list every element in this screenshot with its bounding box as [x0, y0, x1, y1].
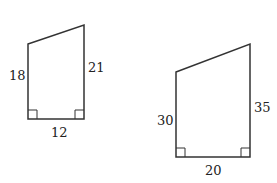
- diagram-canvas: 18 21 12 30 35 20: [0, 0, 277, 183]
- large-trapezoid-outline: [176, 44, 250, 157]
- right-angle-marker-right: [241, 148, 250, 157]
- large-bottom-label: 20: [205, 163, 222, 178]
- right-angle-marker-left: [28, 110, 37, 119]
- small-bottom-label: 12: [51, 125, 68, 140]
- small-trapezoid: 18 21 12: [9, 25, 105, 140]
- small-left-side-label: 18: [9, 68, 26, 83]
- right-angle-marker-left: [176, 148, 185, 157]
- small-right-side-label: 21: [88, 60, 105, 75]
- large-trapezoid: 30 35 20: [157, 44, 271, 178]
- large-left-side-label: 30: [157, 113, 174, 128]
- small-trapezoid-outline: [28, 25, 84, 119]
- right-angle-marker-right: [75, 110, 84, 119]
- large-right-side-label: 35: [254, 100, 271, 115]
